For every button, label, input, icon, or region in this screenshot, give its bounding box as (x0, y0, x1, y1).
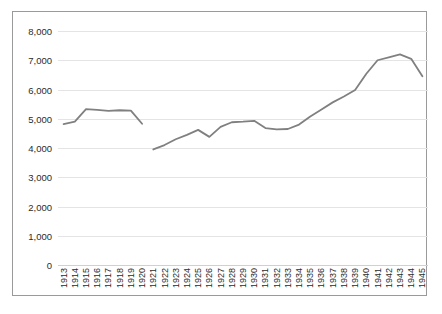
x-axis-tick-label: 1919 (126, 268, 136, 288)
x-axis-tick-label: 1930 (249, 268, 259, 288)
y-axis-tick-label: 7,000 (28, 55, 52, 66)
x-axis-tick-label: 1932 (272, 268, 282, 288)
line-segment-2 (153, 54, 422, 149)
x-axis-tick-label: 1931 (260, 268, 270, 288)
x-axis-tick-label: 1943 (395, 268, 405, 288)
x-axis-tick-label: 1944 (406, 268, 416, 288)
y-axis-tick-label: 2,000 (28, 201, 52, 212)
x-axis-tick-label: 1916 (92, 268, 102, 288)
x-axis-tick-label: 1937 (328, 268, 338, 288)
x-axis-tick-label: 1934 (294, 268, 304, 288)
x-axis-tick-label: 1915 (81, 268, 91, 288)
x-axis-tick-label: 1940 (361, 268, 371, 288)
x-axis-tick-label: 1936 (316, 268, 326, 288)
y-axis-tick-label: 1,000 (28, 230, 52, 241)
y-axis-tick-label: 5,000 (28, 113, 52, 124)
x-axis-labels-group: 1913191419151916191719181919192019211922… (58, 265, 428, 310)
x-axis-tick-label: 1939 (350, 268, 360, 288)
x-axis-tick-label: 1941 (373, 268, 383, 288)
y-axis-tick-label: 4,000 (28, 143, 52, 154)
y-axis-tick-label: 3,000 (28, 172, 52, 183)
x-axis-tick-label: 1935 (305, 268, 315, 288)
x-axis-tick-label: 1921 (148, 268, 158, 288)
x-axis-tick-label: 1920 (137, 268, 147, 288)
x-axis-tick-label: 1925 (193, 268, 203, 288)
x-axis-tick-label: 1923 (171, 268, 181, 288)
x-axis-tick-label: 1929 (238, 268, 248, 288)
plot-area: 8,0007,0006,0005,0004,0003,0002,0001,000… (58, 31, 428, 265)
x-axis-tick-label: 1926 (204, 268, 214, 288)
y-axis-tick-label: 8,000 (28, 26, 52, 37)
chart-container: 8,0007,0006,0005,0004,0003,0002,0001,000… (12, 11, 427, 296)
y-axis-tick-label: 6,000 (28, 84, 52, 95)
line-segment-1 (64, 109, 142, 124)
x-axis-tick-label: 1945 (417, 268, 427, 288)
x-axis-tick-label: 1924 (182, 268, 192, 288)
x-axis-tick-label: 1933 (283, 268, 293, 288)
series-lines (58, 31, 428, 265)
x-axis-tick-label: 1913 (59, 268, 69, 288)
x-axis-tick-label: 1928 (227, 268, 237, 288)
x-axis-tick-label: 1938 (339, 268, 349, 288)
x-axis-tick-label: 1927 (216, 268, 226, 288)
x-axis-tick-label: 1942 (384, 268, 394, 288)
x-axis-tick-label: 1917 (103, 268, 113, 288)
x-axis-tick-label: 1914 (70, 268, 80, 288)
x-axis-tick-label: 1922 (160, 268, 170, 288)
y-axis-tick-label: 0 (47, 260, 52, 271)
x-axis-tick-label: 1918 (115, 268, 125, 288)
